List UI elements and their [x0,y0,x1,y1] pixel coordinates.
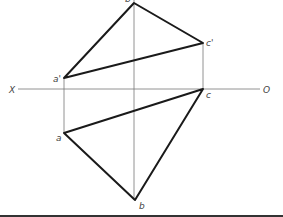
axis-label-x: X [8,85,16,95]
top-view-triangle [64,89,203,200]
label-b-prime: b' [125,0,133,4]
projection-diagram: X O b' c' a' c a b [0,0,283,217]
label-a: a [56,133,62,143]
label-b: b [139,201,145,211]
label-c-prime: c' [206,38,213,48]
axis-label-o: O [263,85,270,95]
label-c: c [206,90,211,100]
label-a-prime: a' [53,74,61,84]
front-view-triangle [64,3,203,78]
